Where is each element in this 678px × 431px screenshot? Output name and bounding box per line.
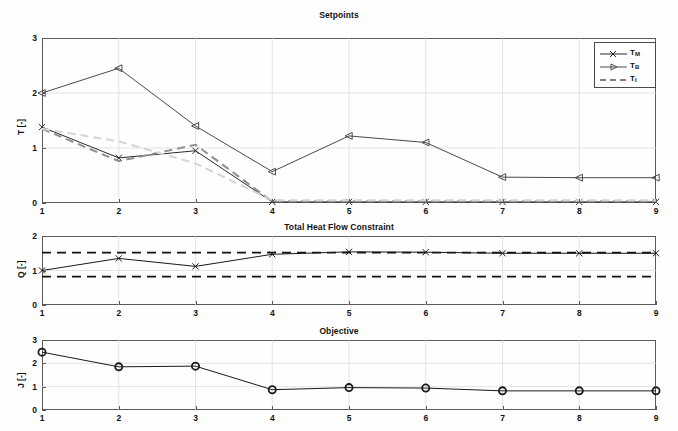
x-tick-label: 1 [35,206,49,216]
x-tick-label: 6 [419,308,433,318]
x-tickmark [426,199,427,203]
y-tickmark [42,410,46,411]
x-tickmark [656,406,657,410]
x-tick-label: 9 [649,308,663,318]
x-tickmark [196,199,197,203]
x-tick-label: 2 [112,413,126,423]
x-tickmark [196,406,197,410]
x-tickmark [119,406,120,410]
y-tickmark [42,305,46,306]
x-tickmark [119,199,120,203]
y-tickmark [42,38,46,39]
x-tick-label: 8 [572,206,586,216]
x-tick-label: 8 [572,308,586,318]
x-tickmark [349,406,350,410]
y-tick-label: 1 [23,266,37,276]
x-tick-label: 3 [189,206,203,216]
y-tick-label: 2 [23,88,37,98]
x-tickmark [503,406,504,410]
x-tickmark [349,199,350,203]
panel-setpoints-series-layer [0,0,678,222]
x-tickmark [503,301,504,305]
x-tickmark [579,301,580,305]
y-tick-label: 3 [23,33,37,43]
panel-objective: Objective J [-] 1234567890123 [0,326,678,431]
x-tickmark [426,301,427,305]
x-tickmark [656,199,657,203]
x-tickmark [426,406,427,410]
y-tickmark [42,203,46,204]
x-tick-label: 7 [496,308,510,318]
x-tick-label: 1 [35,413,49,423]
x-tickmark [656,301,657,305]
x-tick-label: 6 [419,413,433,423]
x-tick-label: 7 [496,413,510,423]
y-tick-label: 1 [23,143,37,153]
y-tickmark [42,363,46,364]
x-tick-label: 5 [342,413,356,423]
x-tickmark [349,301,350,305]
x-tickmark [579,406,580,410]
y-tickmark [42,340,46,341]
x-tickmark [272,199,273,203]
x-tickmark [196,301,197,305]
y-tickmark [42,148,46,149]
figure-canvas: Setpoints T [-] 1234567890123 TM TB TI T… [0,0,678,431]
x-tick-label: 7 [496,206,510,216]
x-tickmark [579,199,580,203]
legend-entry-ti: TI [630,74,637,83]
x-tickmark [503,199,504,203]
x-tick-label: 9 [649,413,663,423]
x-tick-label: 3 [189,413,203,423]
y-tick-label: 0 [23,198,37,208]
panel-heatflow: Total Heat Flow Constraint Q [-] 1234567… [0,222,678,326]
x-tick-label: 1 [35,308,49,318]
x-tick-label: 5 [342,308,356,318]
legend-entry-tb: TB [630,61,639,70]
x-tickmark [272,301,273,305]
y-tickmark [42,271,46,272]
legend-sample-lines [595,43,657,89]
x-tick-label: 2 [112,308,126,318]
y-tick-label: 2 [23,231,37,241]
y-tickmark [42,387,46,388]
y-tickmark [42,93,46,94]
x-tickmark [119,301,120,305]
x-tickmark [272,406,273,410]
legend-entry-tm: TM [630,48,640,57]
x-tick-label: 5 [342,206,356,216]
x-tick-label: 4 [265,413,279,423]
y-tick-label: 1 [23,382,37,392]
y-tick-label: 0 [23,405,37,415]
x-tick-label: 6 [419,206,433,216]
x-tick-label: 8 [572,413,586,423]
x-tick-label: 4 [265,206,279,216]
y-tick-label: 3 [23,335,37,345]
x-tick-label: 2 [112,206,126,216]
x-tick-label: 9 [649,206,663,216]
y-tick-label: 2 [23,358,37,368]
x-tick-label: 4 [265,308,279,318]
y-tickmark [42,236,46,237]
setpoints-legend: TM TB TI [594,42,656,88]
panel-setpoints: Setpoints T [-] 1234567890123 TM TB TI [0,0,678,222]
x-tick-label: 3 [189,308,203,318]
y-tick-label: 0 [23,300,37,310]
